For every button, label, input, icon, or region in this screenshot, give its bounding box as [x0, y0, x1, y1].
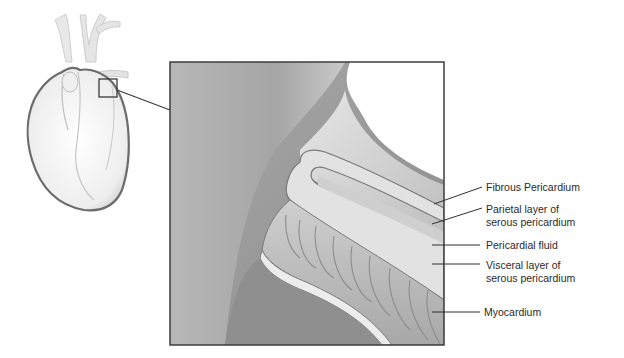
pericardium-diagram: Fibrous Pericardium Parietal layer of se… — [0, 0, 624, 358]
heart-overview-illustration — [28, 14, 170, 210]
label-myocardium: Myocardium — [484, 306, 541, 319]
diagram-canvas — [0, 0, 624, 358]
label-fibrous-pericardium: Fibrous Pericardium — [486, 181, 580, 194]
label-parietal-layer: Parietal layer of serous pericardium — [486, 203, 575, 228]
label-visceral-layer: Visceral layer of serous pericardium — [486, 259, 575, 284]
inset-magnified-view — [170, 62, 444, 345]
label-pericardial-fluid: Pericardial fluid — [486, 239, 558, 252]
